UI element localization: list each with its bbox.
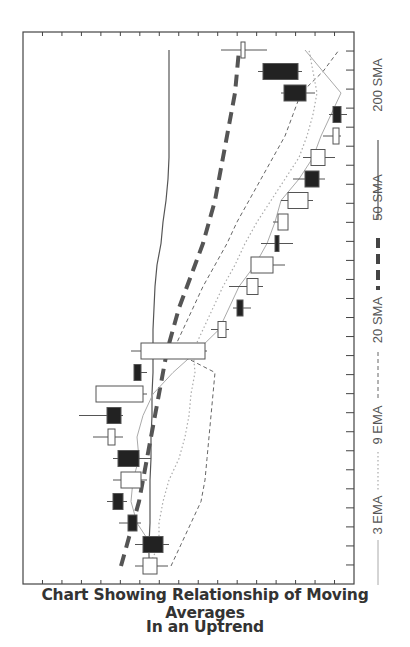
legend-label: 3 EMA: [370, 495, 385, 534]
legend-item-20-sma: 20 SMA: [370, 297, 385, 398]
candlestick: [107, 494, 127, 510]
candlestick: [229, 279, 263, 295]
candlestick: [281, 85, 315, 101]
moving-averages-chart: 200 SMA50 SMA20 SMA9 EMA3 EMA: [0, 0, 410, 647]
legend-label: 200 SMA: [370, 58, 385, 112]
candlestick: [96, 386, 147, 402]
chart-title-line-1: Chart Showing Relationship of Moving Ave…: [0, 586, 410, 622]
ma-line-50-sma: [121, 50, 239, 566]
candlestick: [79, 408, 123, 424]
legend-label: 50 SMA: [370, 174, 385, 221]
legend-item-9-ema: 9 EMA: [370, 405, 385, 490]
candlestick: [251, 257, 285, 273]
candlestick: [323, 128, 341, 144]
candlestick: [261, 236, 293, 252]
candlestick: [258, 64, 302, 80]
legend-item-3-ema: 3 EMA: [370, 495, 385, 585]
moving-average-lines: [121, 50, 341, 566]
chart-legend: 200 SMA50 SMA20 SMA9 EMA3 EMA: [370, 58, 385, 585]
ma-line-20-sma: [171, 50, 339, 566]
candlestick: [134, 365, 147, 381]
legend-item-50-sma: 50 SMA: [370, 174, 385, 290]
candlestick: [135, 558, 168, 574]
candlestick: [233, 300, 251, 316]
plot-border: [23, 32, 354, 584]
plot-frame: [23, 32, 354, 584]
candlestick: [135, 537, 169, 553]
candlestick: [273, 214, 288, 230]
candlesticks: [79, 42, 347, 574]
candlestick: [329, 107, 347, 123]
chart-title-line-2: In an Uptrend: [0, 618, 410, 636]
candlestick: [131, 343, 207, 359]
legend-label: 20 SMA: [370, 297, 385, 344]
candlestick: [221, 42, 267, 58]
legend-label: 9 EMA: [370, 405, 385, 444]
candlestick: [303, 150, 335, 166]
candlestick: [293, 171, 325, 187]
candlestick: [93, 429, 123, 445]
candlestick: [119, 515, 141, 531]
